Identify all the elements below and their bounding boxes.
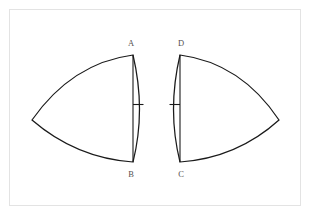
right-curved-triangle xyxy=(170,55,280,162)
left-curved-triangle xyxy=(32,55,144,162)
vertex-label-d: D xyxy=(178,38,184,48)
right-shape-outline xyxy=(174,55,280,162)
vertex-label-a: A xyxy=(128,38,135,48)
left-shape-outline xyxy=(32,55,140,162)
vertex-label-b: B xyxy=(128,169,134,179)
vertex-label-c: C xyxy=(178,169,184,179)
geometry-figure-canvas: A B C D xyxy=(0,0,311,216)
figure-vector-layer: A B C D xyxy=(0,0,311,216)
